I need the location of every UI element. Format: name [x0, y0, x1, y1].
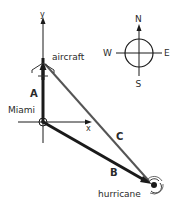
compass-east-label: E: [164, 48, 170, 58]
miami-label: Miami: [8, 105, 35, 115]
compass-south-label: S: [136, 79, 142, 89]
vector-c-label: C: [116, 131, 123, 142]
compass-icon: N S W E: [103, 14, 170, 89]
vector-diagram: y x A C B aircraft Miami: [0, 0, 178, 211]
hurricane-icon: [147, 176, 163, 194]
x-axis-label: x: [86, 124, 91, 133]
y-axis-label: y: [40, 10, 45, 19]
x-axis: x: [18, 120, 92, 134]
hurricane-label: hurricane: [98, 189, 141, 199]
aircraft-label: aircraft: [52, 52, 85, 62]
vector-b-label: B: [110, 167, 118, 178]
compass-west-label: W: [103, 48, 112, 58]
vector-b: B: [43, 122, 152, 184]
vector-a-label: A: [30, 88, 38, 99]
compass-north-label: N: [135, 14, 142, 24]
